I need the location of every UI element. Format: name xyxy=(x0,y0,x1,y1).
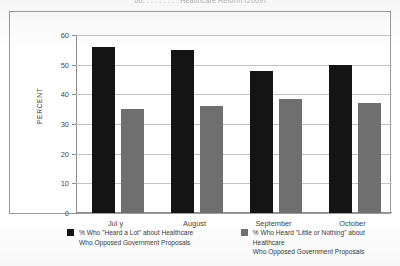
bar-group: September xyxy=(234,35,313,213)
chart-legend: % Who "Heard a Lot" about HealthcareWho … xyxy=(9,228,391,258)
x-axis-category-label: August xyxy=(155,219,234,228)
y-axis-tick-label: 20 xyxy=(61,149,69,158)
legend-label-line1: % Who "Heard a Lot" about Healthcare xyxy=(79,229,193,236)
legend-label-line1: % Who Heard "Little or Nothing" about He… xyxy=(253,229,365,246)
y-axis-tick-label: 40 xyxy=(61,90,69,99)
legend-swatch-series-1 xyxy=(241,229,248,236)
bar-series-0 xyxy=(250,71,273,213)
figure-title: pp. . . . . . . . . Healthcare Reform (2… xyxy=(0,0,400,3)
bar-series-0 xyxy=(171,50,194,213)
x-axis-category-label: October xyxy=(313,219,392,228)
legend-label-line2: Who Opposed Government Proposals xyxy=(79,238,193,248)
x-axis-category-label: Jul y xyxy=(76,219,155,228)
plot-inner: 0102030405060Jul yAugustSeptemberOctober xyxy=(76,35,392,213)
bar-group: October xyxy=(313,35,392,213)
legend-item-series-1: % Who Heard "Little or Nothing" about He… xyxy=(241,228,391,258)
y-axis-tick-label: 0 xyxy=(65,209,69,218)
bar-series-1 xyxy=(121,109,144,213)
bar-series-1 xyxy=(358,103,381,213)
y-axis-tick xyxy=(72,213,76,214)
legend-label-line2: Who Opposed Government Proposals xyxy=(253,247,391,257)
x-axis-category-label: September xyxy=(234,219,313,228)
legend-swatch-series-0 xyxy=(67,229,74,236)
bar-group: August xyxy=(155,35,234,213)
legend-label-series-0: % Who "Heard a Lot" about HealthcareWho … xyxy=(79,228,193,247)
y-axis-tick-label: 50 xyxy=(61,60,69,69)
y-axis-tick-label: 60 xyxy=(61,31,69,40)
bar-series-1 xyxy=(279,99,302,213)
y-axis-tick-label: 30 xyxy=(61,120,69,129)
bar-series-0 xyxy=(92,47,115,213)
legend-label-series-1: % Who Heard "Little or Nothing" about He… xyxy=(253,228,391,257)
bar-series-0 xyxy=(329,65,352,213)
y-axis-title: PERCENT xyxy=(36,88,43,124)
chart-frame: PERCENT 0102030405060Jul yAugustSeptembe… xyxy=(9,11,391,214)
y-axis-tick-label: 10 xyxy=(61,179,69,188)
plot-area: 0102030405060Jul yAugustSeptemberOctober xyxy=(76,35,392,213)
bar-group: Jul y xyxy=(76,35,155,213)
legend-item-series-0: % Who "Heard a Lot" about HealthcareWho … xyxy=(67,228,231,258)
bar-series-1 xyxy=(200,106,223,213)
